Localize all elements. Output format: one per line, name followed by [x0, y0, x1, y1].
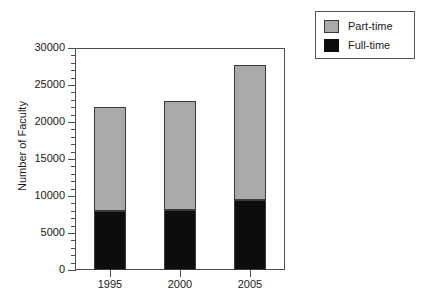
y-tick-major [68, 270, 76, 271]
y-tick-label: 30000 [5, 42, 65, 53]
x-tick [250, 270, 251, 277]
y-tick-label: 15000 [5, 153, 65, 164]
legend-label-part-time: Part-time [348, 21, 393, 32]
y-tick-label: 10000 [5, 190, 65, 201]
bar-segment-part-time [94, 107, 126, 211]
legend-label-full-time: Full-time [348, 40, 390, 51]
y-tick-label: 20000 [5, 116, 65, 127]
x-tick-label: 2005 [220, 279, 280, 290]
legend-item-full-time: Full-time [324, 37, 390, 53]
bar-segment-part-time [234, 65, 266, 200]
x-tick-label: 2000 [150, 279, 210, 290]
y-axis-title: Number of Faculty [16, 81, 28, 211]
bars-layer [75, 48, 285, 270]
x-tick [110, 270, 111, 277]
bar-segment-full-time [94, 211, 126, 270]
x-tick [180, 270, 181, 277]
legend-item-part-time: Part-time [324, 18, 393, 34]
x-tick-label: 1995 [80, 279, 140, 290]
y-tick-label: 0 [5, 264, 65, 275]
y-tick-label: 25000 [5, 79, 65, 90]
y-tick-label: 5000 [5, 227, 65, 238]
bar-segment-part-time [164, 101, 196, 211]
legend-swatch-part-time [324, 20, 339, 33]
bar-segment-full-time [164, 210, 196, 270]
bar-stack [164, 48, 196, 270]
bar-chart: 050001000015000200002500030000 Number of… [0, 0, 427, 301]
bar-segment-full-time [234, 200, 266, 270]
legend-swatch-full-time [324, 39, 339, 52]
legend: Part-time Full-time [315, 11, 415, 59]
bar-stack [234, 48, 266, 270]
bar-stack [94, 48, 126, 270]
